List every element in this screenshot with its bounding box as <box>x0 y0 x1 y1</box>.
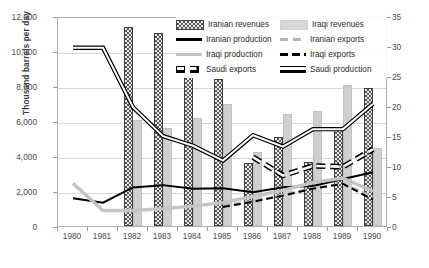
legend-label: Iraqi revenues <box>312 20 364 29</box>
y-axis-left-tick-label: 12,000 <box>0 12 37 22</box>
legend-swatch-iraqi-production-icon <box>176 49 202 60</box>
chart-legend: Iranian revenuesIraqi revenuesIranian pr… <box>176 17 387 78</box>
y-axis-right-tick-label: 25 <box>392 72 422 82</box>
y-axis-left-tick-label: 2,000 <box>0 187 37 197</box>
legend-item-iranian-revenues[interactable]: Iranian revenues <box>176 17 269 32</box>
y-axis-right-tick-label: 20 <box>392 102 422 112</box>
legend-item-iraqi-exports[interactable]: Iraqi exports <box>280 47 355 62</box>
legend-label: Iranian production <box>206 35 272 44</box>
legend-label: Saudi production <box>310 65 371 74</box>
legend-label: Iranian revenues <box>208 20 269 29</box>
y-axis-right-tick-label: 10 <box>392 162 422 172</box>
legend-label: Iraqi exports <box>310 50 355 59</box>
y-axis-right-tick-label: 5 <box>392 192 422 202</box>
y-axis-left-tick-label: 4,000 <box>0 152 37 162</box>
x-axis-tick-label: 1990 <box>352 231 392 241</box>
legend-label: Iranian exports <box>310 35 364 44</box>
line-iranian-production <box>73 172 373 202</box>
y-axis-right-tick-label: 0 <box>392 222 422 232</box>
y-axis-right-tick-label: 30 <box>392 42 422 52</box>
legend-item-saudi-exports[interactable]: Saudi exports <box>176 62 256 77</box>
y-axis-left-tick-label: 6,000 <box>0 117 37 127</box>
line-saudi-exports <box>253 149 373 175</box>
y-axis-right-tick-label: 15 <box>392 132 422 142</box>
legend-item-saudi-production[interactable]: Saudi production <box>280 62 371 77</box>
legend-item-iranian-production[interactable]: Iranian production <box>176 32 272 47</box>
oil-production-revenue-chart: Thousand barrels per day 02,0004,0006,00… <box>0 0 429 268</box>
legend-swatch-iraqi-revenues-icon <box>280 20 308 30</box>
legend-swatch-saudi-production-icon <box>280 64 306 75</box>
legend-item-iranian-exports[interactable]: Iranian exports <box>280 32 364 47</box>
y-axis-left-tick-label: 8,000 <box>0 82 37 92</box>
legend-item-iraqi-production[interactable]: Iraqi production <box>176 47 262 62</box>
legend-swatch-iraqi-exports-icon <box>280 49 306 60</box>
y-axis-left-tick-label: 10,000 <box>0 47 37 57</box>
legend-swatch-iranian-exports-icon <box>280 34 306 45</box>
legend-swatch-saudi-exports-icon <box>176 64 202 75</box>
legend-swatch-iranian-revenues-icon <box>176 20 204 30</box>
line-saudi-exports-inner <box>253 149 373 175</box>
legend-label: Iraqi production <box>206 50 262 59</box>
legend-swatch-iranian-production-icon <box>176 34 202 45</box>
legend-label: Saudi exports <box>206 65 256 74</box>
y-axis-left-tick-label: 0 <box>0 222 37 232</box>
y-axis-right-tick-label: 35 <box>392 12 422 22</box>
legend-item-iraqi-revenues[interactable]: Iraqi revenues <box>280 17 364 32</box>
